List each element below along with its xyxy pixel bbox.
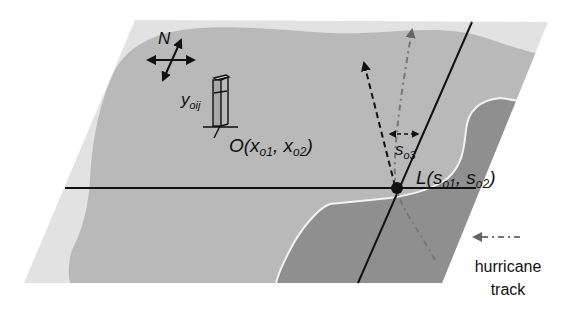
diagram-canvas: N yoij O(xo1, xo2) so3 L(so1, so2) hurri… <box>0 0 581 311</box>
compass-north-label: N <box>158 29 171 48</box>
legend-label-line2: track <box>491 281 527 298</box>
legend-label-line1: hurricane <box>475 258 542 275</box>
landfall-point <box>391 182 403 194</box>
